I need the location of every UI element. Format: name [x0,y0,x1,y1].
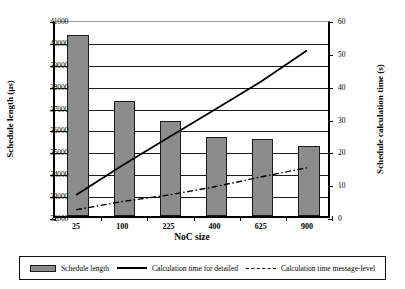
gridline [55,153,328,154]
x-axis-tick-label: 25 [72,222,80,231]
x-axis-title: NoC size [174,232,210,242]
axis-tick [240,216,241,221]
bar-swatch-icon [30,265,56,272]
axis-tick [328,186,333,187]
x-axis-tick-label: 625 [255,222,267,231]
y-axis-right-tick-label: 40 [338,82,346,91]
axis-tick [147,216,148,221]
y-axis-left-tick-label: 39000 [50,60,68,69]
gridline [55,110,328,111]
dash-dot-line-icon [246,268,276,269]
legend-label: Calculation time for detailed [152,264,238,273]
bar [160,121,181,216]
bar [114,101,135,216]
axis-tick [328,55,333,56]
y-axis-left-tick-label: 36000 [50,126,68,135]
x-axis-tick-label: 100 [116,222,128,231]
y-axis-left-tick-label: 32000 [50,214,68,223]
bar [67,35,88,216]
axis-tick [101,216,102,221]
bar [298,146,319,216]
plot-area [53,21,330,218]
y-axis-right-tick-label: 20 [338,148,346,157]
y-axis-left-tick-label: 37000 [50,104,68,113]
x-axis-tick-label: 400 [209,222,221,231]
chart-figure: Schedule length (µs) Schedule calculatio… [0,0,405,289]
gridline [55,197,328,198]
axis-tick [328,153,333,154]
axis-tick [286,216,287,221]
y-axis-left-tick-label: 34000 [50,170,68,179]
y-axis-right-tick-label: 30 [338,115,346,124]
axis-tick [328,22,333,23]
x-axis-tick-label: 225 [162,222,174,231]
y-axis-right-tick-label: 60 [338,17,346,26]
y-axis-left-tick-label: 35000 [50,148,68,157]
solid-line-icon [117,267,147,269]
y-axis-left-tick-label: 41000 [50,17,68,26]
y-axis-right-tick-label: 10 [338,181,346,190]
y-axis-left-title: Schedule length (µs) [5,80,15,158]
y-axis-right-title: Schedule calculation time (s) [375,64,385,174]
axis-tick [194,216,195,221]
axis-tick [328,121,333,122]
y-axis-left-tick-label: 38000 [50,82,68,91]
gridline [55,66,328,67]
y-axis-left-tick-label: 33000 [50,192,68,201]
chart-legend: Schedule length Calculation time for det… [19,256,386,280]
axis-tick [332,216,333,221]
bar [252,139,273,216]
legend-label: Calculation time message-level [281,264,375,273]
gridline [55,88,328,89]
gridline [55,131,328,132]
y-axis-left-tick-label: 40000 [50,38,68,47]
gridline [55,44,328,45]
legend-item-calculation-time-message-level: Calculation time message-level [246,264,375,273]
bar [206,137,227,216]
legend-item-calculation-time-detailed: Calculation time for detailed [117,264,238,273]
gridline [55,175,328,176]
axis-tick [328,88,333,89]
y-axis-right-tick-label: 0 [338,214,342,223]
y-axis-right-tick-label: 50 [338,49,346,58]
x-axis-tick-label: 900 [301,222,313,231]
legend-item-schedule-length: Schedule length [30,264,109,273]
legend-label: Schedule length [61,264,109,273]
